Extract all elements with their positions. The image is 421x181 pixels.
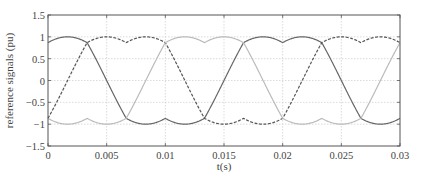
y-tick-label: 0.5: [32, 54, 45, 65]
y-tick-label: 1.5: [32, 10, 45, 21]
y-tick-label: 1: [40, 32, 45, 43]
x-tick-label: 0: [45, 150, 50, 161]
reference-signals-chart: 00.0050.010.0150.020.0250.031.510.50−0.5…: [0, 0, 421, 181]
x-axis-label: t(s): [217, 160, 232, 173]
x-tick-label: 0.01: [156, 150, 174, 161]
y-tick-label: −1: [34, 119, 45, 130]
y-tick-label: −0.5: [26, 97, 45, 108]
x-tick-label: 0.03: [391, 150, 409, 161]
y-tick-label: −1.5: [26, 141, 45, 152]
x-tick-label: 0.02: [273, 150, 291, 161]
y-axis-label: reference signals (pu): [3, 33, 16, 129]
x-tick-label: 0.025: [330, 150, 354, 161]
y-tick-label: 0: [40, 76, 45, 87]
x-tick-label: 0.005: [95, 150, 119, 161]
